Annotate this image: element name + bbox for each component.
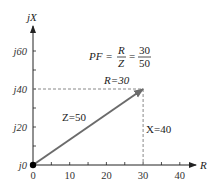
impedance-diagram: 010203040j0j20j40j60 R jX R=30 Z=50 X=40…	[0, 0, 217, 193]
pf-symbol: PF	[88, 50, 103, 62]
x-axis-label: R	[199, 159, 207, 171]
x-tick-label: 30	[138, 170, 149, 181]
y-tick-label: j20	[12, 122, 28, 133]
fraction-2-denominator: 50	[139, 57, 151, 69]
x-tick-label: 20	[101, 170, 112, 181]
equals-sign-1: =	[106, 50, 112, 62]
y-tick-label: j0	[17, 160, 28, 171]
x-tick-label: 10	[64, 170, 75, 181]
x-value-label: X=40	[146, 123, 172, 135]
equals-sign-2: =	[129, 50, 135, 62]
origin-dot	[30, 162, 36, 168]
y-tick-label: j40	[12, 84, 28, 95]
impedance-vector	[33, 89, 143, 165]
power-factor-formula: PF = R Z = 30 50	[88, 44, 151, 69]
fraction-1-denominator: Z	[118, 57, 125, 69]
r-value-label: R=30	[103, 74, 130, 86]
x-tick-label: 40	[175, 170, 186, 181]
fraction-1-numerator: R	[117, 44, 125, 56]
fraction-2-numerator: 30	[139, 44, 151, 56]
z-value-label: Z=50	[62, 111, 86, 123]
y-tick-label: j60	[12, 46, 28, 57]
x-tick-label: 0	[30, 170, 35, 181]
y-axis-label: jX	[25, 11, 38, 23]
